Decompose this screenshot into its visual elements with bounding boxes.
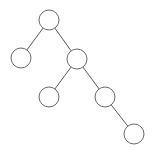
tree-node-root — [39, 10, 59, 30]
tree-node-left — [11, 48, 31, 68]
edge-right-right-to-right-right-right — [111, 105, 128, 126]
tree-node-right — [67, 49, 87, 69]
edge-right-to-right-right — [83, 67, 99, 89]
tree-nodes — [11, 10, 144, 144]
tree-node-right-right — [95, 87, 115, 107]
edge-root-to-left — [27, 28, 43, 50]
edge-root-to-right — [55, 28, 71, 51]
tree-edges — [27, 28, 128, 126]
tree-node-right-right-right — [124, 124, 144, 144]
edge-right-to-right-left — [55, 67, 71, 89]
tree-node-right-left — [39, 87, 59, 107]
tree-diagram — [0, 0, 157, 158]
